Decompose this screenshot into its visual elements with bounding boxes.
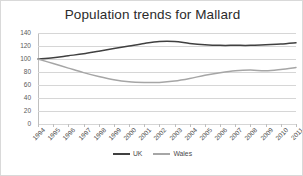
plot-area <box>38 33 296 124</box>
legend-label: Wales <box>173 151 192 158</box>
y-axis-tick-label: 20 <box>24 108 31 115</box>
x-axis-tick-label: 2004 <box>184 127 199 142</box>
y-axis-tick-label: 80 <box>24 69 31 76</box>
x-axis-tick-label: 2008 <box>244 127 259 142</box>
x-axis-tick-label: 2001 <box>138 127 153 142</box>
y-axis-tick-label: 60 <box>24 82 31 89</box>
x-axis-tick-label: 2011 <box>290 127 303 141</box>
legend-swatch-uk <box>113 153 130 155</box>
x-axis-tick-label: 2010 <box>275 127 290 142</box>
x-axis-tick-label: 2006 <box>214 127 229 142</box>
legend-item-uk[interactable]: UK <box>113 151 142 158</box>
x-axis-tick-label: 1997 <box>77 127 92 142</box>
x-axis-tick-label: 2009 <box>259 127 274 142</box>
y-axis-tick-label: 140 <box>20 30 31 37</box>
series-lines <box>38 33 296 124</box>
x-axis-tick-label: 1996 <box>62 127 77 142</box>
chart-legend: UKWales <box>1 151 303 158</box>
y-axis-tick-label: 100 <box>20 56 31 63</box>
chart-title: Population trends for Mallard <box>1 7 303 22</box>
x-axis-tick-label: 1995 <box>47 127 62 142</box>
x-axis-tick-label: 2002 <box>153 127 168 142</box>
legend-label: UK <box>133 151 142 158</box>
series-line-wales <box>38 59 296 83</box>
chart-container: Population trends for Mallard 0204060801… <box>0 0 303 176</box>
x-axis-tick-labels: 1994199519961997199819992000200120022003… <box>38 127 300 151</box>
x-axis-tick-label: 1994 <box>32 127 47 142</box>
y-axis-tick-labels: 020406080100120140 <box>1 33 35 124</box>
x-axis-tick-label: 2003 <box>168 127 183 142</box>
y-axis-tick-label: 40 <box>24 95 31 102</box>
legend-item-wales[interactable]: Wales <box>153 151 192 158</box>
x-axis-tick-label: 1999 <box>108 127 123 142</box>
series-line-uk <box>38 41 296 59</box>
x-axis-tick-label: 2000 <box>123 127 138 142</box>
legend-swatch-wales <box>153 153 170 155</box>
x-axis-tick-label: 2007 <box>229 127 244 142</box>
y-axis-tick-label: 120 <box>20 43 31 50</box>
x-axis-tick-label: 1998 <box>92 127 107 142</box>
y-axis-tick-label: 0 <box>27 121 31 128</box>
x-axis-tick-label: 2005 <box>199 127 214 142</box>
